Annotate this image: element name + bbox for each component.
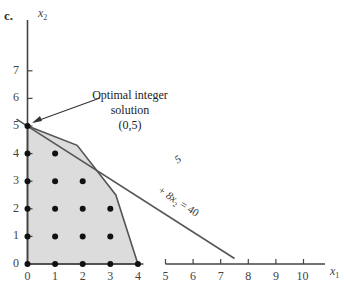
y-tick-label: 7 <box>13 63 19 78</box>
x-tick-label: 6 <box>190 269 196 284</box>
y-tick-label: 6 <box>13 90 19 105</box>
x-tick-label: 2 <box>80 269 86 284</box>
integer-point <box>52 233 58 239</box>
integer-point <box>52 151 58 157</box>
integer-point <box>25 233 31 239</box>
integer-point <box>107 206 113 212</box>
y-tick-label: 0 <box>13 256 19 271</box>
x-tick-label: 5 <box>163 269 169 284</box>
annotation-line-1: Optimal integer <box>70 88 190 103</box>
integer-point <box>25 123 31 129</box>
x-tick-label: 10 <box>297 269 309 284</box>
integer-point <box>52 206 58 212</box>
annotation-line-2: solution <box>70 103 190 118</box>
integer-point <box>52 261 58 267</box>
x-tick-label: 7 <box>218 269 224 284</box>
integer-point <box>25 206 31 212</box>
integer-point <box>107 261 113 267</box>
integer-point <box>80 178 86 184</box>
x-tick-label: 3 <box>107 269 113 284</box>
integer-point <box>135 261 141 267</box>
annotation-line-3: (0,5) <box>70 118 190 133</box>
x-axis-label: x1 <box>330 264 339 280</box>
y-tick-label: 5 <box>13 118 19 133</box>
integer-point <box>80 206 86 212</box>
integer-point <box>107 233 113 239</box>
integer-point <box>25 261 31 267</box>
x-tick-label: 0 <box>25 269 31 284</box>
y-tick-label: 4 <box>13 146 19 161</box>
y-axis-label: x2 <box>38 6 47 22</box>
y-tick-label: 2 <box>13 201 19 216</box>
integer-point <box>25 151 31 157</box>
x-tick-label: 9 <box>273 269 279 284</box>
x-tick-label: 4 <box>135 269 141 284</box>
integer-point <box>80 233 86 239</box>
plot-area <box>0 0 344 290</box>
integer-point <box>80 261 86 267</box>
integer-point <box>52 178 58 184</box>
y-tick-label: 1 <box>13 228 19 243</box>
arrow-head-icon <box>32 116 42 123</box>
feasible-region <box>28 126 138 264</box>
optimal-solution-annotation: Optimal integer solution (0,5) <box>70 88 190 133</box>
x-tick-label: 8 <box>245 269 251 284</box>
y-tick-label: 3 <box>13 173 19 188</box>
integer-point <box>25 178 31 184</box>
x-tick-label: 1 <box>52 269 58 284</box>
